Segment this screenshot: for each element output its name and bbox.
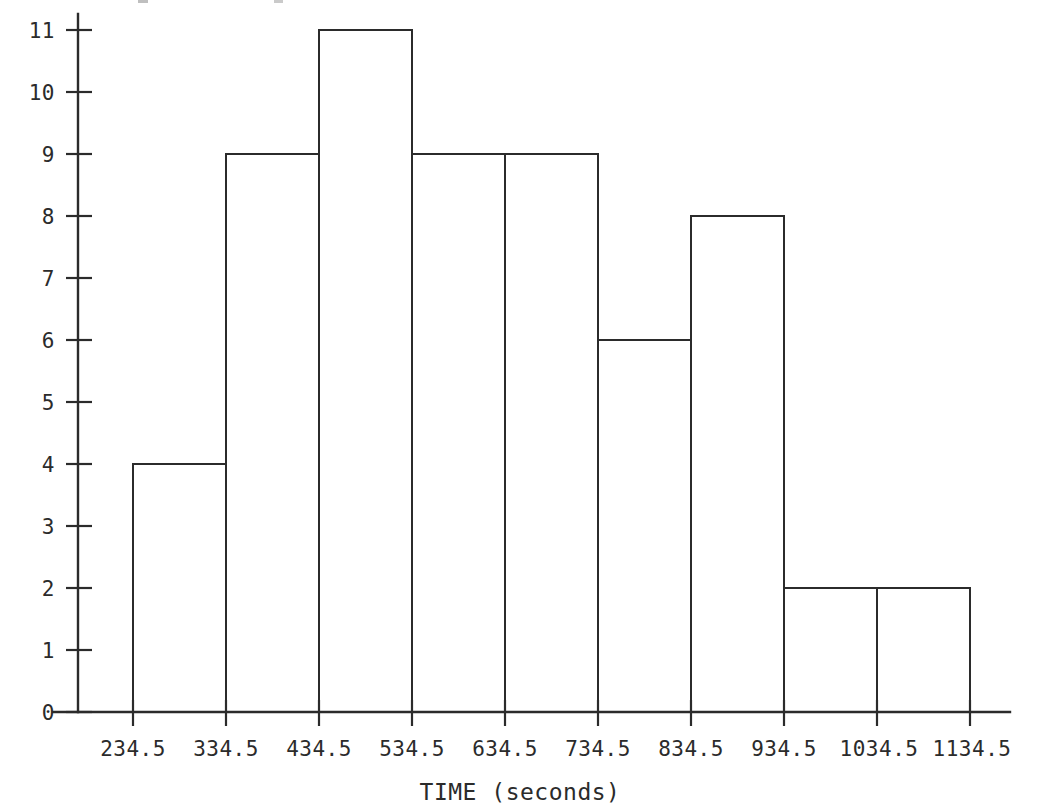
xtick-label-2: 434.5 <box>286 737 352 761</box>
top-crop-artifact <box>138 0 283 3</box>
histogram-plot-area: 0 1 2 3 4 5 6 7 8 9 10 11 <box>0 0 1037 812</box>
histogram-figure: 0 1 2 3 4 5 6 7 8 9 10 11 <box>0 0 1037 812</box>
ytick-label-10: 10 <box>29 81 55 105</box>
xtick-label-7: 934.5 <box>751 737 817 761</box>
axes <box>53 14 1010 712</box>
ytick-label-9: 9 <box>42 143 55 167</box>
xtick-label-5: 734.5 <box>565 737 631 761</box>
ytick-label-0: 0 <box>42 701 55 725</box>
xtick-label-8: 1034.5 <box>840 737 919 761</box>
xtick-label-9: 1134.5 <box>933 737 1012 761</box>
ytick-label-5: 5 <box>42 391 55 415</box>
xtick-label-4: 634.5 <box>472 737 538 761</box>
y-axis-tick-labels: 0 1 2 3 4 5 6 7 8 9 10 11 <box>29 19 55 725</box>
ytick-label-2: 2 <box>42 577 55 601</box>
x-axis-tick-labels: 234.5 334.5 434.5 534.5 634.5 734.5 834.… <box>100 737 1011 761</box>
xtick-label-1: 334.5 <box>193 737 259 761</box>
xtick-label-6: 834.5 <box>658 737 724 761</box>
histogram-bars <box>133 30 970 712</box>
ytick-label-4: 4 <box>42 453 55 477</box>
histogram-step-outline <box>133 30 970 712</box>
x-axis-title: TIME (seconds) <box>420 779 621 805</box>
xtick-label-3: 534.5 <box>379 737 445 761</box>
ytick-label-7: 7 <box>42 267 55 291</box>
ytick-label-8: 8 <box>42 205 55 229</box>
ytick-label-6: 6 <box>42 329 55 353</box>
ytick-label-3: 3 <box>42 515 55 539</box>
ytick-label-1: 1 <box>42 639 55 663</box>
xtick-label-0: 234.5 <box>100 737 166 761</box>
ytick-label-11: 11 <box>29 19 55 43</box>
